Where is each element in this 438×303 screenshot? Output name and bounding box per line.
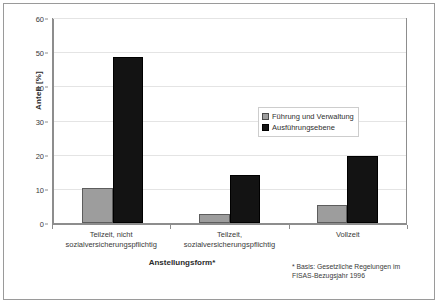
y-tick-label: 60 [12,17,44,25]
x-category-label: Vollzeit [289,230,407,250]
chart-figure: Anteil [%] 0102030405060 Führung und Ver… [0,0,438,303]
y-tick-mark [45,87,48,88]
x-axis-category-labels: Teilzeit, nichtsozialversicherungspflich… [52,230,407,250]
y-tick-label: 40 [12,85,44,93]
y-tick-label: 0 [12,222,44,230]
plot-area: Führung und Verwaltung Ausführungsebene [52,18,407,225]
y-tick-mark [45,224,48,225]
x-tick-mark [170,225,171,229]
x-axis-title: Anstellungsform* [52,258,312,267]
x-tick-mark [52,225,53,229]
bar-group [54,19,171,223]
x-category-label-line: sozialversicherungspflichtig [54,240,168,250]
legend-swatch-icon-series-1 [262,124,269,131]
y-tick-mark [45,189,48,190]
legend: Führung und Verwaltung Ausführungsebene [258,107,359,137]
bar-series-1 [113,57,144,223]
x-category-label-line: Teilzeit, [172,230,286,240]
y-tick-mark [45,19,48,20]
x-category-label: Teilzeit, nichtsozialversicherungspflich… [52,230,170,250]
y-tick-label: 20 [12,153,44,161]
legend-item-ausfuehrungsebene: Ausführungsebene [262,122,354,133]
legend-swatch-icon-series-0 [262,113,269,120]
x-axis-line [53,223,406,224]
bar-series-0 [317,205,348,223]
y-tick-mark [45,53,48,54]
x-category-label-line: Vollzeit [291,230,405,240]
x-tick-mark [407,225,408,229]
footnote-line-1: * Basis: Gesetzliche Regelungen im [292,262,432,271]
bar-series-1 [230,175,261,223]
footnote-line-2: FISAS-Bezugsjahr 1996 [292,271,432,280]
y-tick-mark [45,121,48,122]
y-tick-label: 50 [12,51,44,59]
x-category-label-line: sozialversicherungspflichtig [172,240,286,250]
x-category-label: Teilzeit,sozialversicherungspflichtig [170,230,288,250]
y-axis-ticks: 0102030405060 [12,18,48,225]
legend-label-series-0: Führung und Verwaltung [272,113,354,121]
bar-series-1 [347,156,378,223]
bar-series-0 [199,214,230,223]
legend-item-fuehrung-und-verwaltung: Führung und Verwaltung [262,111,354,122]
y-tick-mark [45,155,48,156]
x-tick-mark [289,225,290,229]
bar-series-0 [82,188,113,223]
chart-footnote: * Basis: Gesetzliche Regelungen im FISAS… [292,262,432,280]
y-tick-label: 30 [12,119,44,127]
x-category-label-line: Teilzeit, nicht [54,230,168,240]
y-tick-label: 10 [12,187,44,195]
legend-label-series-1: Ausführungsebene [272,124,335,132]
